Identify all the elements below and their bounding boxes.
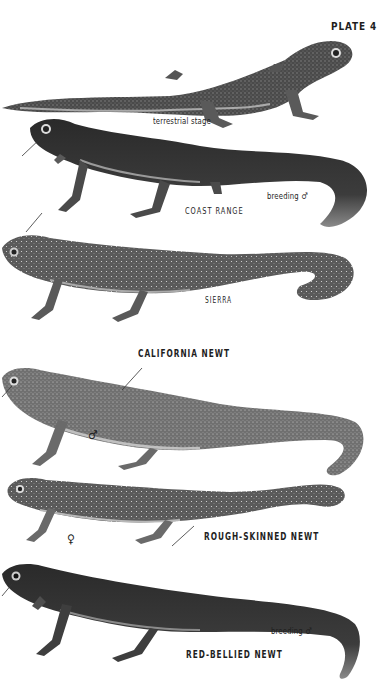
species-red-bellied-newt: RED-BELLIED NEWT <box>186 649 283 660</box>
newt-sierra <box>2 213 354 322</box>
plate-title: PLATE 4 <box>331 20 377 33</box>
note-breeding-male-red-bellied: breeding ♂ <box>271 626 312 636</box>
male-symbol-california: ♂ <box>88 428 98 442</box>
female-symbol-rough-skinned: ♀ <box>67 532 75 546</box>
caption-coast-range: COAST RANGE <box>185 206 244 216</box>
note-breeding-male-coast: breeding ♂ <box>267 191 308 201</box>
newt-terrestrial <box>2 41 352 128</box>
newt-red-bellied <box>2 564 360 679</box>
caption-terrestrial-stage: terrestrial stage <box>153 116 211 126</box>
caption-sierra: SIERRA <box>205 296 232 305</box>
species-rough-skinned-newt: ROUGH-SKINNED NEWT <box>204 531 319 542</box>
newt-california <box>2 368 363 475</box>
species-california-newt: CALIFORNIA NEWT <box>138 348 230 359</box>
newt-illustrations <box>0 0 390 694</box>
field-guide-plate: PLATE 4 terrestrial stage breeding ♂ COA… <box>0 0 390 694</box>
